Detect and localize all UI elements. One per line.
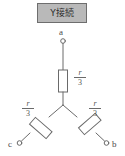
resistor-right-numerator: r bbox=[87, 99, 103, 108]
circuit-canvas bbox=[0, 0, 125, 156]
terminal-c-label: c bbox=[8, 140, 12, 149]
wire-center-to-right bbox=[63, 105, 77, 117]
resistor-right-denominator: 3 bbox=[87, 109, 103, 119]
resistor-top-numerator: r bbox=[72, 68, 88, 77]
terminal-b-node bbox=[104, 141, 109, 146]
resistor-left-denominator: 3 bbox=[20, 109, 36, 119]
resistor-top-body bbox=[59, 70, 68, 92]
terminal-b-label: b bbox=[112, 140, 117, 149]
wire-right-to-b bbox=[96, 133, 105, 141]
wire-center-to-left bbox=[49, 105, 63, 117]
resistor-left-numerator: r bbox=[20, 99, 36, 108]
wire-left-to-c bbox=[22, 133, 31, 141]
terminal-c-node bbox=[17, 141, 22, 146]
resistor-right-label: r 3 bbox=[87, 99, 103, 119]
terminal-a-label: a bbox=[59, 28, 63, 37]
y-connection-diagram: Y接続 a b c bbox=[0, 0, 125, 156]
resistor-left-body bbox=[30, 117, 53, 138]
resistor-left-label: r 3 bbox=[20, 99, 36, 119]
resistor-top-label: r 3 bbox=[72, 68, 88, 88]
resistor-top-denominator: 3 bbox=[72, 78, 88, 88]
terminal-a-node bbox=[61, 39, 66, 44]
